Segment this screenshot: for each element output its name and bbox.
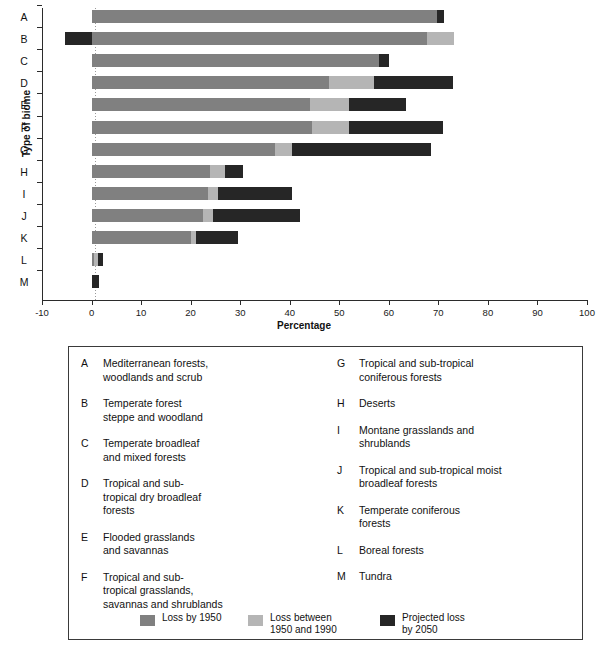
biome-key-box: AMediterranean forests, woodlands and sc… [68,346,583,640]
key-column-left: AMediterranean forests, woodlands and sc… [81,357,331,624]
key-label: Temperate coniferous forests [359,504,460,531]
bar-segment-projected [98,253,103,266]
bar-segment-loss-1950 [92,165,211,178]
y-tick-mark [37,248,42,249]
legend-item: Projected loss by 2050 [380,612,465,636]
x-tick-mark [191,300,192,305]
key-label: Flooded grasslands and savannas [103,531,195,558]
x-tick-mark [92,300,93,305]
y-tick-mark [37,27,42,28]
bar-row [0,231,608,244]
key-entry-g: GTropical and sub-tropical coniferous fo… [337,357,577,384]
bar-segment-loss-1950-1990 [210,165,225,178]
key-label: Montane grasslands and shrublands [359,424,474,451]
bar-row [0,143,608,156]
x-tick-label: 70 [418,307,458,318]
bar-segment-projected [374,76,453,89]
key-letter: L [337,544,359,558]
bar-row [0,54,608,67]
bar-segment-projected [92,275,99,288]
bar-segment-loss-1950 [92,121,312,134]
bar-segment-projected [225,165,242,178]
key-label: Tropical and sub- tropical grasslands, s… [103,571,223,612]
bar-segment-loss-1950-1990 [427,32,454,45]
bar-segment-projected [437,10,444,23]
legend-label: Projected loss by 2050 [402,612,465,636]
x-tick-label: 80 [468,307,508,318]
key-entry-m: MTundra [337,570,577,584]
key-letter: M [337,570,359,584]
key-label: Tropical and sub-tropical coniferous for… [359,357,474,384]
bar-segment-loss-1950-1990 [310,98,350,111]
key-label: Mediterranean forests, woodlands and scr… [103,357,208,384]
bar-segment-loss-1950-1990 [208,187,218,200]
y-tick-mark [37,116,42,117]
x-tick-label: 30 [220,307,260,318]
legend-item: Loss between 1950 and 1990 [248,612,337,636]
y-tick-mark [37,270,42,271]
x-tick-mark [389,300,390,305]
key-column-right: GTropical and sub-tropical coniferous fo… [337,357,577,597]
bar-segment-projected [379,54,389,67]
key-entry-f: FTropical and sub- tropical grasslands, … [81,571,331,612]
key-entry-d: DTropical and sub- tropical dry broadlea… [81,477,331,518]
key-label: Tropical and sub- tropical dry broadleaf… [103,477,201,518]
key-entry-a: AMediterranean forests, woodlands and sc… [81,357,331,384]
key-entry-b: BTemperate forest steppe and woodland [81,397,331,424]
x-tick-label: 60 [369,307,409,318]
bar-row [0,187,608,200]
x-tick-mark [141,300,142,305]
key-letter: C [81,437,103,464]
key-entry-h: HDeserts [337,397,577,411]
x-tick-mark [339,300,340,305]
key-letter: H [337,397,359,411]
key-entry-c: CTemperate broadleaf and mixed forests [81,437,331,464]
x-tick-mark [488,300,489,305]
bar-segment-projected [349,98,406,111]
key-label: Tropical and sub-tropical moist broadlea… [359,464,502,491]
x-tick-label: 40 [270,307,310,318]
bar-row [0,253,608,266]
bar-segment-projected [218,187,292,200]
bar-segment-loss-1950 [92,76,330,89]
key-letter: D [81,477,103,518]
x-tick-mark [290,300,291,305]
bar-segment-loss-1950 [92,54,379,67]
bar-segment-loss-1950-1990 [275,143,292,156]
bar-segment-projected [292,143,431,156]
bar-segment-projected [349,121,443,134]
bar-segment-loss-1950-1990 [329,76,374,89]
x-tick-label: 50 [319,307,359,318]
bar-segment-loss-1950 [92,187,208,200]
y-tick-mark [37,138,42,139]
legend-item: Loss by 1950 [140,612,222,626]
bar-segment-projected [196,231,238,244]
bar-segment-loss-1950 [92,143,275,156]
y-tick-mark [37,160,42,161]
chart-region: Type of biome ABCDEFGHIJKLM -10010203040… [0,0,608,330]
key-letter: K [337,504,359,531]
y-tick-mark [37,226,42,227]
chart-legend: Loss by 1950Loss between 1950 and 1990Pr… [80,612,550,642]
bar-segment-loss-1950 [92,10,438,23]
bar-segment-loss-1950 [92,98,310,111]
key-letter: J [337,464,359,491]
bar-row [0,32,608,45]
bar-segment-projected [65,32,91,45]
key-letter: G [337,357,359,384]
bar-row [0,10,608,23]
legend-label: Loss between 1950 and 1990 [270,612,337,636]
y-tick-mark [37,204,42,205]
bar-row [0,76,608,89]
x-tick-mark [587,300,588,305]
bar-segment-loss-1950 [92,32,428,45]
x-tick-label: -10 [22,307,62,318]
bar-row [0,275,608,288]
bar-segment-loss-1950 [92,209,203,222]
x-tick-mark [537,300,538,305]
key-letter: A [81,357,103,384]
x-tick-mark [438,300,439,305]
x-axis-title: Percentage [0,320,608,331]
bar-row [0,121,608,134]
x-tick-mark [240,300,241,305]
